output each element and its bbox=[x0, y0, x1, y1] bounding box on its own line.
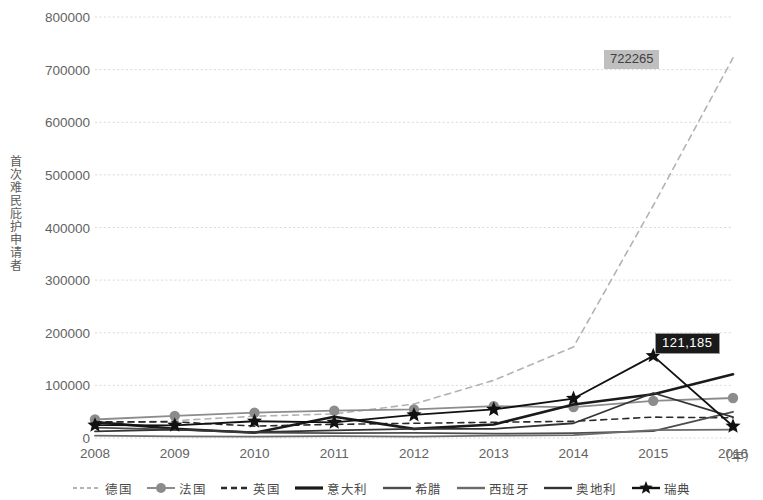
series-marker-star bbox=[486, 401, 501, 415]
gridlines bbox=[95, 17, 733, 438]
x-tick-label: 2013 bbox=[479, 446, 509, 461]
legend-item[interactable]: 意大利 bbox=[294, 479, 368, 498]
legend-item-label: 英国 bbox=[253, 479, 280, 498]
series-marker-circle bbox=[728, 393, 738, 403]
legend-key-icon bbox=[146, 481, 176, 495]
legend-item[interactable]: 英国 bbox=[220, 479, 280, 498]
legend-key-icon bbox=[631, 481, 661, 495]
plot-area bbox=[0, 0, 763, 500]
germany-2016-data-label: 722265 bbox=[604, 50, 659, 69]
legend-key-icon bbox=[72, 481, 102, 495]
legend-key-icon bbox=[456, 481, 486, 495]
legend-item-label: 瑞典 bbox=[664, 479, 691, 498]
x-tick-label: 2012 bbox=[399, 446, 429, 461]
legend-key-icon bbox=[220, 481, 250, 495]
x-tick-label: 2015 bbox=[638, 446, 668, 461]
x-axis-unit-label: （年） bbox=[718, 446, 757, 465]
legend-item-label: 意大利 bbox=[327, 479, 368, 498]
legend-key-icon bbox=[382, 481, 412, 495]
x-tick-label: 2011 bbox=[320, 446, 349, 461]
legend-item-label: 西班牙 bbox=[489, 479, 530, 498]
series-marker-circle bbox=[648, 396, 658, 406]
legend-item[interactable]: 奥地利 bbox=[543, 479, 617, 498]
italy-2016-data-label: 121,185 bbox=[655, 333, 720, 354]
legend-item[interactable]: 德国 bbox=[72, 479, 132, 498]
legend-item[interactable]: 西班牙 bbox=[456, 479, 530, 498]
legend-item[interactable]: 希腊 bbox=[382, 479, 442, 498]
legend-item-label: 奥地利 bbox=[576, 479, 617, 498]
legend-key-icon bbox=[294, 481, 324, 495]
series-line bbox=[95, 58, 733, 424]
x-tick-label: 2014 bbox=[558, 446, 588, 461]
x-tick-label: 2009 bbox=[160, 446, 190, 461]
legend-item-label: 法国 bbox=[179, 479, 206, 498]
x-tick-label: 2008 bbox=[80, 446, 110, 461]
chart-legend: 德国法国英国意大利希腊西班牙奥地利瑞典 bbox=[0, 476, 763, 500]
series-lines bbox=[87, 58, 740, 437]
legend-key-icon bbox=[543, 481, 573, 495]
series-marker-circle bbox=[329, 405, 339, 415]
legend-item[interactable]: 法国 bbox=[146, 479, 206, 498]
legend-item-label: 德国 bbox=[105, 479, 132, 498]
chart-container: 首次难民庇护申请者 010000020000030000040000050000… bbox=[0, 0, 763, 500]
x-tick-label: 2010 bbox=[239, 446, 269, 461]
legend-item-label: 希腊 bbox=[415, 479, 442, 498]
legend-item[interactable]: 瑞典 bbox=[631, 479, 691, 498]
